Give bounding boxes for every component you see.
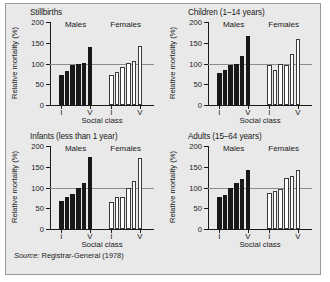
y-axis-tick xyxy=(46,167,50,168)
source-value: Registrar-General (1978) xyxy=(39,251,123,260)
bar-males-I xyxy=(59,75,64,105)
bar-females-I xyxy=(109,75,114,105)
x-axis-tick-label: I xyxy=(110,108,112,117)
plot-area: 050100150200Relative mortality (%)Social… xyxy=(50,22,154,105)
y-axis-tick xyxy=(46,43,50,44)
y-axis-tick-label: 50 xyxy=(36,80,44,89)
x-axis-tick-label: V xyxy=(245,232,250,241)
y-axis-tick xyxy=(46,188,50,189)
chart-panel-adults: Adults (15–64 years) 050100150200Relativ… xyxy=(164,130,322,253)
figure-panel: Stillbirths 050100150200Relative mortali… xyxy=(5,3,321,275)
x-axis-tick-label: V xyxy=(137,108,142,117)
y-axis-tick-label: 150 xyxy=(189,38,202,47)
y-axis-tick xyxy=(204,64,208,65)
bar-males-I xyxy=(217,73,222,105)
bar-males-V xyxy=(88,157,93,229)
source-label: Source: xyxy=(14,251,39,260)
bar-males-IIIN xyxy=(70,194,75,229)
y-axis-tick xyxy=(46,208,50,209)
bar-females-IV xyxy=(290,176,295,229)
y-axis-tick-label: 50 xyxy=(194,80,202,89)
bar-males-IIIN xyxy=(70,65,75,105)
bar-males-II xyxy=(223,195,228,229)
x-axis-line xyxy=(208,105,312,106)
bar-males-IIIM xyxy=(234,64,239,105)
source-caption: Source: Registrar-General (1978) xyxy=(14,251,124,260)
bar-males-II xyxy=(65,71,70,105)
y-axis-tick-label: 50 xyxy=(36,204,44,213)
y-axis-tick-label: 50 xyxy=(194,204,202,213)
x-axis-tick-label: V xyxy=(295,108,300,117)
chart-panel-stillbirths: Stillbirths 050100150200Relative mortali… xyxy=(6,6,164,129)
x-axis-tick-label: V xyxy=(87,108,92,117)
x-axis-tick-label: V xyxy=(137,232,142,241)
x-axis-line xyxy=(50,229,154,230)
y-axis-tick-label: 150 xyxy=(189,162,202,171)
y-axis-tick-label: 100 xyxy=(189,59,202,68)
y-axis-title: Relative mortality (%) xyxy=(168,27,177,99)
x-axis-line xyxy=(50,105,154,106)
x-axis-tick-label: I xyxy=(218,232,220,241)
bar-males-IV xyxy=(82,183,87,229)
bar-females-V xyxy=(138,158,143,229)
y-axis-tick xyxy=(204,167,208,168)
plot-area: 050100150200Relative mortality (%)Social… xyxy=(208,146,312,229)
x-axis-title: Social class xyxy=(239,240,280,249)
bar-males-V xyxy=(246,36,251,105)
bar-females-IIIM xyxy=(284,65,289,105)
bar-females-II xyxy=(273,70,278,105)
x-axis-tick-label: V xyxy=(87,232,92,241)
bar-females-IV xyxy=(132,61,137,105)
group-label-females: Females xyxy=(268,144,299,153)
y-axis-tick xyxy=(46,64,50,65)
y-axis-title: Relative mortality (%) xyxy=(10,27,19,99)
bar-males-IIIM xyxy=(76,64,81,105)
y-axis-tick-label: 0 xyxy=(40,225,44,234)
y-axis-tick-label: 200 xyxy=(31,18,44,27)
bar-females-IIIN xyxy=(120,197,125,229)
bar-males-I xyxy=(217,197,222,229)
group-label-females: Females xyxy=(110,20,141,29)
y-axis-tick xyxy=(204,84,208,85)
bar-males-IV xyxy=(240,179,245,229)
plot-area: 050100150200Relative mortality (%)Social… xyxy=(208,22,312,105)
bar-males-IIIN xyxy=(228,188,233,230)
x-axis-title: Social class xyxy=(81,240,122,249)
panel-title: Children (1–14 years) xyxy=(188,8,265,17)
panel-title: Stillbirths xyxy=(30,8,62,17)
panel-title: Adults (15–64 years) xyxy=(188,132,262,141)
bar-females-IIIN xyxy=(278,64,283,106)
y-axis-tick xyxy=(46,84,50,85)
group-label-females: Females xyxy=(268,20,299,29)
y-axis-tick xyxy=(204,105,208,106)
y-axis-title: Relative mortality (%) xyxy=(168,151,177,223)
bar-females-IIIN xyxy=(278,189,283,229)
y-axis-tick-label: 100 xyxy=(31,59,44,68)
y-axis-tick-label: 200 xyxy=(189,142,202,151)
y-axis-tick-label: 100 xyxy=(189,183,202,192)
bar-females-IIIN xyxy=(120,67,125,105)
x-axis-tick-label: V xyxy=(245,108,250,117)
bar-males-I xyxy=(59,201,64,229)
group-label-males: Males xyxy=(223,20,244,29)
y-axis-title: Relative mortality (%) xyxy=(10,151,19,223)
group-label-males: Males xyxy=(65,20,86,29)
x-axis-tick-label: I xyxy=(60,232,62,241)
bar-males-IIIM xyxy=(234,183,239,229)
bar-females-IIIM xyxy=(126,63,131,105)
chart-panel-infants: Infants (less than 1 year) 050100150200R… xyxy=(6,130,164,253)
x-axis-tick-label: I xyxy=(268,232,270,241)
y-axis-tick-label: 200 xyxy=(31,142,44,151)
bar-males-IV xyxy=(240,56,245,105)
y-axis-tick xyxy=(204,146,208,147)
bar-males-IV xyxy=(82,63,87,105)
y-axis-tick-label: 0 xyxy=(40,101,44,110)
group-label-females: Females xyxy=(110,144,141,153)
bar-females-V xyxy=(138,46,143,105)
group-label-males: Males xyxy=(65,144,86,153)
x-axis-tick-label: I xyxy=(268,108,270,117)
y-axis-tick xyxy=(46,146,50,147)
y-axis-tick-label: 0 xyxy=(198,101,202,110)
x-axis-tick-label: I xyxy=(60,108,62,117)
y-axis-tick-label: 0 xyxy=(198,225,202,234)
